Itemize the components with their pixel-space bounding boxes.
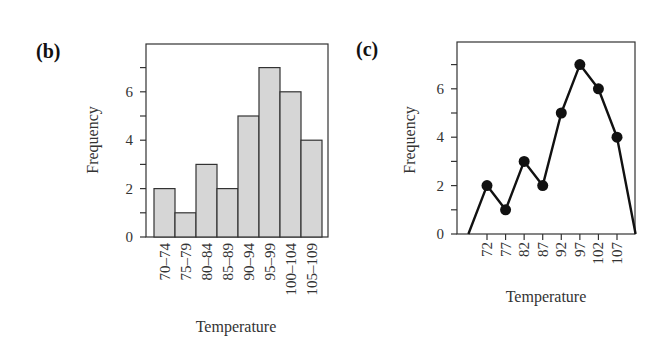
x-tick-label: 77 [498,242,514,258]
data-point-marker [556,108,567,119]
x-axis-tick-labels: 70–7475–7980–8485–8990–9495–99100–104105… [157,243,320,296]
y-axis: 0246 [437,65,458,242]
x-tick-label: 107 [609,242,625,265]
y-tick-label: 2 [126,181,134,197]
x-tick-label: 105–109 [304,243,320,296]
y-axis-title: Frequency [401,106,419,174]
data-point-marker [612,132,623,143]
figure: (b) 0246 70–7475–7980–8485–8990–9495–991… [0,0,670,344]
y-tick-label: 6 [126,84,134,100]
y-tick-label: 0 [126,229,134,245]
y-tick-label: 0 [437,226,445,242]
x-tick-label: 75–79 [178,243,194,281]
y-axis-title: Frequency [84,106,102,174]
histogram-bar [154,189,175,237]
data-point-marker [519,156,530,167]
histogram-bar [175,213,196,237]
panel-label-b: (b) [36,40,60,63]
histogram-bar [259,68,280,237]
x-tick-label: 82 [516,242,532,257]
y-tick-label: 2 [437,178,445,194]
y-tick-label: 4 [126,132,134,148]
data-point-marker [593,83,604,94]
histogram-bar [238,116,259,237]
x-tick-label: 70–74 [157,243,173,281]
histogram-bar [196,164,217,237]
y-tick-label: 6 [437,81,445,97]
y-tick-label: 4 [437,129,445,145]
plot-frame [457,42,635,234]
x-tick-label: 95–99 [262,243,278,281]
x-tick-label: 97 [572,242,588,258]
histogram-bar [217,189,238,237]
frequency-polygon-panel: (c) 0246 727782879297102107 Frequency Te… [356,38,636,306]
x-tick-label: 85–89 [220,243,236,281]
polygon-line [468,65,635,234]
x-tick-label: 80–84 [199,243,215,281]
x-tick-label: 102 [590,242,606,265]
x-tick-label: 87 [535,242,551,258]
frequency-polygon-line [468,59,635,234]
data-point-marker [537,180,548,191]
x-tick-label: 100–104 [283,243,299,296]
data-point-marker [500,204,511,215]
x-axis-title: Temperature [506,288,587,306]
histogram-bars [154,68,322,237]
histogram-panel: (b) 0246 70–7475–7980–8485–8990–9495–991… [36,40,328,336]
x-axis-title: Temperature [196,318,277,336]
panel-label-c: (c) [356,38,378,61]
x-tick-label: 90–94 [241,243,257,281]
x-tick-label: 72 [479,242,495,257]
histogram-bar [280,92,301,237]
x-tick-label: 92 [553,242,569,257]
x-axis-tick-labels: 727782879297102107 [479,234,625,265]
data-point-marker [482,180,493,191]
histogram-bar [301,140,322,237]
y-axis: 0246 [126,68,147,245]
data-point-marker [574,59,585,70]
